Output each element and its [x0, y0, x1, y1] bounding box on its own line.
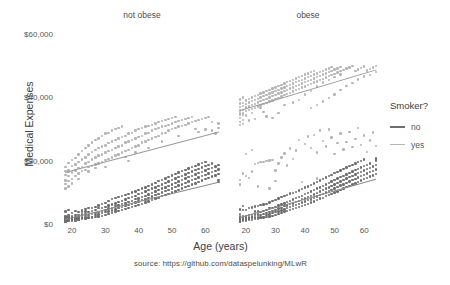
data-point — [313, 70, 315, 72]
data-point — [151, 192, 153, 194]
data-point — [87, 207, 89, 209]
data-point — [372, 170, 374, 172]
data-point — [348, 131, 350, 133]
data-point — [121, 144, 123, 146]
data-point — [369, 74, 371, 76]
data-point — [111, 203, 113, 205]
data-point — [239, 183, 241, 185]
data-point — [245, 153, 247, 155]
data-point — [137, 189, 139, 191]
data-point — [74, 157, 76, 159]
x-tick-label: 30 — [263, 226, 287, 236]
data-point — [239, 98, 241, 100]
data-point — [171, 179, 173, 181]
data-point — [351, 146, 353, 148]
data-point — [248, 216, 250, 218]
data-point — [184, 124, 186, 126]
data-point — [316, 177, 318, 179]
data-point — [295, 85, 297, 87]
data-point — [117, 145, 119, 147]
data-point — [325, 176, 327, 178]
data-point — [154, 136, 156, 138]
chart-caption: source: https://github.com/dataspelunkin… — [57, 259, 384, 268]
data-point — [164, 182, 166, 184]
data-point — [127, 207, 129, 209]
data-point — [251, 149, 253, 151]
data-point — [360, 144, 362, 146]
data-point — [217, 127, 219, 129]
data-point — [167, 129, 169, 131]
legend-key-yes-icon — [390, 140, 405, 150]
data-point — [204, 161, 206, 163]
data-point — [277, 162, 279, 164]
data-point — [181, 179, 183, 181]
data-point — [369, 139, 371, 141]
x-tick-label: 40 — [127, 226, 151, 236]
data-point — [245, 110, 247, 112]
data-point — [239, 121, 241, 123]
data-point — [161, 183, 163, 185]
data-point — [313, 81, 315, 83]
data-point — [64, 187, 66, 189]
data-point — [114, 128, 116, 130]
data-point — [242, 102, 244, 104]
data-point — [307, 76, 309, 78]
data-point — [295, 197, 297, 199]
data-point — [292, 158, 294, 160]
data-point — [174, 173, 176, 175]
data-point — [254, 205, 256, 207]
data-point — [345, 141, 347, 143]
data-point — [372, 165, 374, 167]
data-point — [181, 170, 183, 172]
legend-item-no[interactable]: no — [390, 120, 450, 133]
data-point — [87, 216, 89, 218]
data-point — [114, 139, 116, 141]
data-point — [313, 73, 315, 75]
data-point — [207, 168, 209, 170]
data-point — [147, 200, 149, 202]
data-point — [161, 132, 163, 134]
data-point — [372, 174, 374, 176]
data-point — [204, 178, 206, 180]
legend-label-no: no — [411, 122, 420, 132]
data-point — [77, 178, 79, 180]
data-point — [131, 191, 133, 193]
data-point — [280, 156, 282, 158]
data-point — [114, 210, 116, 212]
data-point — [354, 173, 356, 175]
data-point — [154, 190, 156, 192]
data-point — [124, 150, 126, 152]
data-point — [164, 177, 166, 179]
data-point — [239, 106, 241, 108]
data-point — [283, 104, 285, 106]
data-point — [357, 68, 359, 70]
data-point — [121, 200, 123, 202]
data-point — [375, 71, 377, 73]
data-point — [214, 174, 216, 176]
data-point — [137, 204, 139, 206]
data-point — [71, 171, 73, 173]
data-point — [211, 167, 213, 169]
data-point — [94, 149, 96, 151]
panel-not-obese — [57, 22, 227, 225]
legend-item-yes[interactable]: yes — [390, 138, 450, 151]
data-point — [121, 151, 123, 153]
data-point — [301, 86, 303, 88]
data-point — [117, 153, 119, 155]
data-point — [322, 178, 324, 180]
data-point — [310, 198, 312, 200]
data-point — [313, 134, 315, 136]
data-point — [194, 182, 196, 184]
data-point — [298, 196, 300, 198]
legend-title: Smoker? — [390, 100, 450, 111]
data-point — [201, 118, 203, 120]
data-point — [283, 152, 285, 154]
data-point — [94, 216, 96, 218]
data-point — [239, 124, 241, 126]
data-point — [97, 213, 99, 215]
x-tick-label: 50 — [323, 226, 347, 236]
data-point — [319, 197, 321, 199]
data-point — [164, 132, 166, 134]
data-point — [77, 153, 79, 155]
data-point — [292, 82, 294, 84]
